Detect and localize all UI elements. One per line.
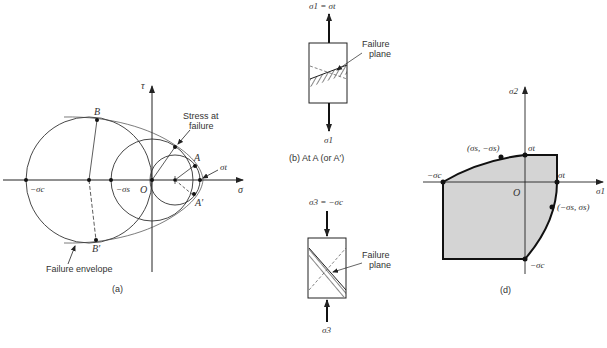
failure-envelope-label: Failure envelope — [46, 264, 113, 274]
d-neg-sigma-c-left-label: −σc — [427, 170, 442, 180]
panel-b-tension-specimen: σ1 = σt σ1 Failure plane (b) At A (or A′… — [289, 1, 391, 163]
failure-plane-label-b-1: Failure — [362, 39, 390, 49]
d-neg-sigma-s-sigma-s-label: (−σs, σs) — [557, 202, 589, 212]
point-neg-sigma-c — [24, 178, 28, 182]
d-origin-label: O — [513, 187, 520, 198]
point-B-prime — [94, 238, 98, 242]
B-prime-label: B′ — [92, 243, 101, 254]
sigma2-axis-label: σ2 — [509, 86, 518, 96]
panel-c-compression-specimen: σ3 = −σc σ3 Failure plane — [308, 197, 391, 335]
figure-canvas: τ σ O −σc −σs σt A A′ B B′ Stress at fai… — [0, 0, 607, 348]
panel-b-top-label: σ1 = σt — [309, 1, 336, 11]
panel-c-bottom-label: σ3 — [322, 325, 331, 335]
d-sigma-t-right-label: σt — [558, 170, 565, 180]
neg-sigma-c-label: −σc — [30, 184, 45, 194]
failure-plane-label-c-1: Failure — [362, 250, 390, 260]
failure-envelope-arrow — [68, 246, 75, 264]
point-stress-at-failure — [173, 145, 177, 149]
panel-d-caption: (d) — [500, 285, 511, 295]
point-A — [193, 164, 197, 168]
d-point-sigma-s-neg-sigma-s — [499, 155, 504, 160]
point-origin — [150, 178, 154, 182]
point-A-prime — [192, 192, 196, 196]
line-B-Bprime-dashed — [89, 180, 96, 240]
origin-label: O — [140, 184, 147, 195]
sigma-t-label: σt — [220, 162, 227, 172]
line-B-Bprime-solid — [89, 120, 97, 180]
line-Aprime-center-dashed — [175, 180, 193, 195]
d-point-sigma-t-right — [555, 180, 560, 185]
d-point-neg-sigma-c-bottom — [523, 257, 528, 262]
sigma-t-arrow — [203, 170, 218, 178]
d-point-neg-sigma-s-sigma-s — [550, 205, 555, 210]
stress-at-failure-arrow — [178, 130, 190, 144]
point-neg-sigma-s — [109, 178, 113, 182]
failure-plane-label-b-2: plane — [369, 49, 391, 59]
panel-a-mohr-circles: τ σ O −σc −σs σt A A′ B B′ Stress at fai… — [3, 80, 244, 294]
point-sigma-t — [198, 178, 202, 182]
A-prime-label: A′ — [194, 197, 204, 208]
panel-b-bottom-label: σ1 — [324, 135, 333, 145]
d-point-sigma-t-top — [523, 153, 528, 158]
d-neg-sigma-c-bottom-label: −σc — [530, 260, 545, 270]
failure-envelope-upper — [64, 117, 203, 180]
failure-envelope-lower — [64, 180, 203, 243]
panel-b-caption: (b) At A (or A′) — [289, 153, 344, 163]
stress-at-failure-label-2: failure — [189, 121, 214, 131]
panel-a-caption: (a) — [112, 284, 123, 294]
failure-plane-label-c-2: plane — [369, 260, 391, 270]
panel-d-failure-locus: σ2 σ1 O −σc (σs, −σs) σt σt (−σs, σs) −σ… — [423, 86, 605, 295]
d-sigma-s-neg-sigma-s-label: (σs, −σs) — [467, 143, 499, 153]
line-center-stress — [152, 147, 175, 180]
A-label: A — [193, 152, 201, 163]
B-label: B — [94, 106, 100, 117]
stress-at-failure-label-1: Stress at — [183, 111, 219, 121]
neg-sigma-s-label: −σs — [116, 184, 131, 194]
tau-axis-label: τ — [141, 80, 145, 91]
panel-c-top-label: σ3 = −σc — [309, 197, 343, 207]
point-center-B — [87, 178, 91, 182]
sigma1-axis-label: σ1 — [596, 186, 605, 196]
d-sigma-t-top-label: σt — [528, 143, 535, 153]
safe-region — [443, 155, 557, 259]
point-B — [95, 118, 99, 122]
d-point-neg-sigma-c-left — [441, 180, 446, 185]
point-center-small — [173, 178, 177, 182]
sigma-axis-label: σ — [238, 184, 244, 195]
